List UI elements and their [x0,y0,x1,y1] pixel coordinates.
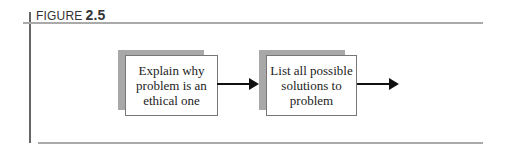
node-label: List all possible solutions to problem [267,63,356,108]
arrow-2 [357,83,397,85]
node-explain-ethical: Explain why problem is an ethical one [125,55,218,116]
node-list-solutions: List all possible solutions to problem [266,55,357,116]
left-rule [29,12,31,143]
node-label: Explain why problem is an ethical one [126,63,217,108]
figure-number: 2.5 [86,7,106,23]
figure-word: FIGURE [36,9,83,23]
bottom-rule [38,142,483,144]
figure-label: FIGURE2.5 [36,7,106,23]
arrow-1 [217,83,257,85]
